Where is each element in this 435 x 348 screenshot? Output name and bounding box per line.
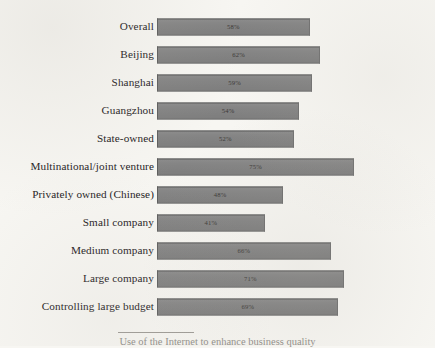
bar-track: 48% (157, 187, 283, 204)
bar-value-label: 59% (158, 80, 311, 87)
bar-category-label: Medium company (71, 245, 154, 256)
bar: 75% (157, 159, 354, 176)
bar: 66% (157, 243, 331, 260)
bar-track: 69% (157, 299, 338, 316)
bar: 52% (157, 131, 294, 148)
bar-value-label: 71% (158, 276, 343, 283)
bar-value-label: 62% (158, 52, 319, 59)
bar-row: Beijing62% (0, 41, 435, 69)
bar-value-label: 54% (158, 108, 298, 115)
bar-row: Multinational/joint venture75% (0, 153, 435, 181)
caption-divider-rule (118, 332, 194, 333)
figure-caption: Use of the Internet to enhance business … (0, 336, 435, 348)
bar-category-label: Overall (120, 21, 154, 32)
bar-track: 71% (157, 271, 344, 288)
bar-row: Privately owned (Chinese)48% (0, 181, 435, 209)
bar-value-label: 58% (158, 24, 309, 31)
bar-track: 62% (157, 47, 320, 64)
bar-track: 66% (157, 243, 331, 260)
bar-value-label: 48% (158, 192, 282, 199)
bar-category-label: Guangzhou (102, 105, 154, 116)
bar-value-label: 69% (158, 304, 337, 311)
bar: 62% (157, 47, 320, 64)
bar: 48% (157, 187, 283, 204)
bar-row: State-owned52% (0, 125, 435, 153)
bar-track: 54% (157, 103, 299, 120)
bar-category-label: State-owned (97, 133, 154, 144)
bar-row: Medium company66% (0, 237, 435, 265)
bar-value-label: 52% (158, 136, 293, 143)
bar-track: 59% (157, 75, 312, 92)
bar-track: 41% (157, 215, 265, 232)
bar-track: 75% (157, 159, 354, 176)
bar-row: Large company71% (0, 265, 435, 293)
bar: 59% (157, 75, 312, 92)
bar-category-label: Shanghai (112, 77, 154, 88)
bar: 41% (157, 215, 265, 232)
bar-value-label: 66% (158, 248, 330, 255)
bar-category-label: Multinational/joint venture (30, 161, 154, 172)
bar-category-label: Controlling large budget (42, 301, 154, 312)
bar-category-label: Large company (83, 273, 154, 284)
bar-row: Guangzhou54% (0, 97, 435, 125)
bar-category-label: Small company (83, 217, 154, 228)
bar: 71% (157, 271, 344, 288)
bar-track: 52% (157, 131, 294, 148)
bar: 54% (157, 103, 299, 120)
bar-row: Small company41% (0, 209, 435, 237)
bar-track: 58% (157, 19, 310, 36)
bar-row: Controlling large budget69% (0, 293, 435, 321)
bar-value-label: 75% (158, 164, 353, 171)
bar: 58% (157, 19, 310, 36)
bar-value-label: 41% (158, 220, 264, 227)
bar-category-label: Beijing (120, 49, 154, 60)
bar-category-label: Privately owned (Chinese) (32, 189, 154, 200)
bar: 69% (157, 299, 338, 316)
bar-row: Shanghai59% (0, 69, 435, 97)
chart-plot-area: Overall58%Beijing62%Shanghai59%Guangzhou… (0, 13, 435, 321)
bar-row: Overall58% (0, 13, 435, 41)
